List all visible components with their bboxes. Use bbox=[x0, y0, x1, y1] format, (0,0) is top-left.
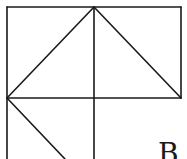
geometry-figure bbox=[0, 0, 187, 159]
right-diagonal-line bbox=[94, 7, 181, 98]
point-label-b: B bbox=[158, 140, 179, 159]
lower-diagonal-line bbox=[7, 98, 65, 159]
left-diagonal-line bbox=[7, 7, 94, 98]
